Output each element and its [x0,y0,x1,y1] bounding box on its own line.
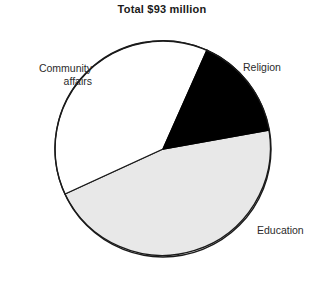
pie-label-religion: Religion [243,61,281,74]
pie-label-community-affairs: Community affairs [6,62,92,87]
pie-chart-figure: Total $93 million Community affairs Reli… [0,0,324,284]
pie-chart-graphic [0,0,324,284]
pie-label-education: Education [257,224,304,237]
